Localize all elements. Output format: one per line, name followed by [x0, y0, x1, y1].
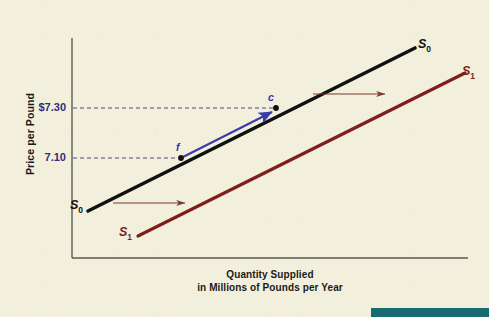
x-axis-title-line2: in Millions of Pounds per Year: [130, 281, 410, 294]
curve-label-s0-bottom: S0: [70, 198, 83, 215]
curve-label-s1-bottom-subscript: 1: [127, 232, 132, 242]
y-tick-label-730: $7.30: [6, 101, 66, 113]
x-axis-title: Quantity Supplied in Millions of Pounds …: [130, 268, 410, 294]
data-point-f: [178, 155, 184, 161]
curve-label-s0-top-subscript: 0: [426, 44, 431, 54]
point-label-f: f: [176, 141, 180, 153]
data-point-c: [273, 105, 279, 111]
supply-curve-figure: Price per Pound Quantity Supplied in Mil…: [0, 0, 489, 317]
supply-curve-s0: [88, 48, 415, 211]
curve-label-s1-bottom: S1: [119, 225, 132, 242]
point-label-c: c: [268, 91, 274, 103]
curve-label-s1-top: S1: [462, 64, 475, 81]
curve-label-s0-bottom-subscript: 0: [78, 205, 83, 215]
movement-arrow-f-to-c: [183, 112, 272, 157]
curve-label-s0-top: S0: [418, 37, 431, 54]
curve-label-s1-top-subscript: 1: [470, 71, 475, 81]
y-axis-title: Price per Pound: [24, 79, 36, 189]
x-axis-title-line1: Quantity Supplied: [130, 268, 410, 281]
footer-accent-bar: [371, 308, 489, 317]
y-tick-label-710: 7.10: [6, 151, 66, 163]
